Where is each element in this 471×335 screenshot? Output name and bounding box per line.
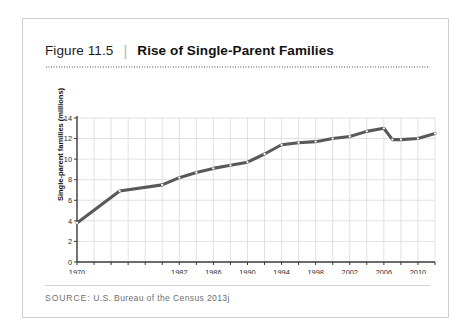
svg-text:10: 10 bbox=[64, 155, 72, 164]
figure-card: Figure 11.5 | Rise of Single-Parent Fami… bbox=[22, 18, 449, 318]
svg-text:1994: 1994 bbox=[273, 268, 289, 275]
svg-text:2010: 2010 bbox=[410, 268, 426, 275]
line-chart-svg: 0246810121419701982198619901994199820022… bbox=[31, 74, 443, 274]
svg-text:1998: 1998 bbox=[307, 268, 323, 275]
figure-header: Figure 11.5 | Rise of Single-Parent Fami… bbox=[45, 37, 430, 63]
source-note: SOURCE: U.S. Bureau of the Census 2013j bbox=[45, 293, 230, 303]
source-text: U.S. Bureau of the Census 2013j bbox=[93, 293, 230, 303]
svg-text:4: 4 bbox=[68, 217, 72, 226]
figure-separator: | bbox=[123, 42, 127, 59]
svg-text:6: 6 bbox=[68, 196, 72, 205]
figure-number: Figure 11.5 bbox=[45, 43, 113, 58]
svg-text:2006: 2006 bbox=[376, 268, 392, 275]
svg-text:12: 12 bbox=[64, 134, 72, 143]
chart-plot-area: Single-parent families (millions) 024681… bbox=[31, 74, 443, 274]
source-label: SOURCE: bbox=[45, 293, 90, 303]
svg-text:8: 8 bbox=[68, 175, 72, 184]
svg-text:0: 0 bbox=[68, 258, 72, 267]
svg-text:2002: 2002 bbox=[342, 268, 358, 275]
svg-text:1970: 1970 bbox=[69, 268, 85, 275]
svg-text:14: 14 bbox=[64, 114, 72, 123]
svg-text:1986: 1986 bbox=[205, 268, 221, 275]
svg-text:2: 2 bbox=[68, 237, 72, 246]
header-divider bbox=[45, 66, 430, 68]
svg-text:1982: 1982 bbox=[171, 268, 187, 275]
figure-title: Rise of Single-Parent Families bbox=[137, 43, 334, 58]
svg-text:1990: 1990 bbox=[239, 268, 255, 275]
source-divider bbox=[45, 285, 430, 286]
